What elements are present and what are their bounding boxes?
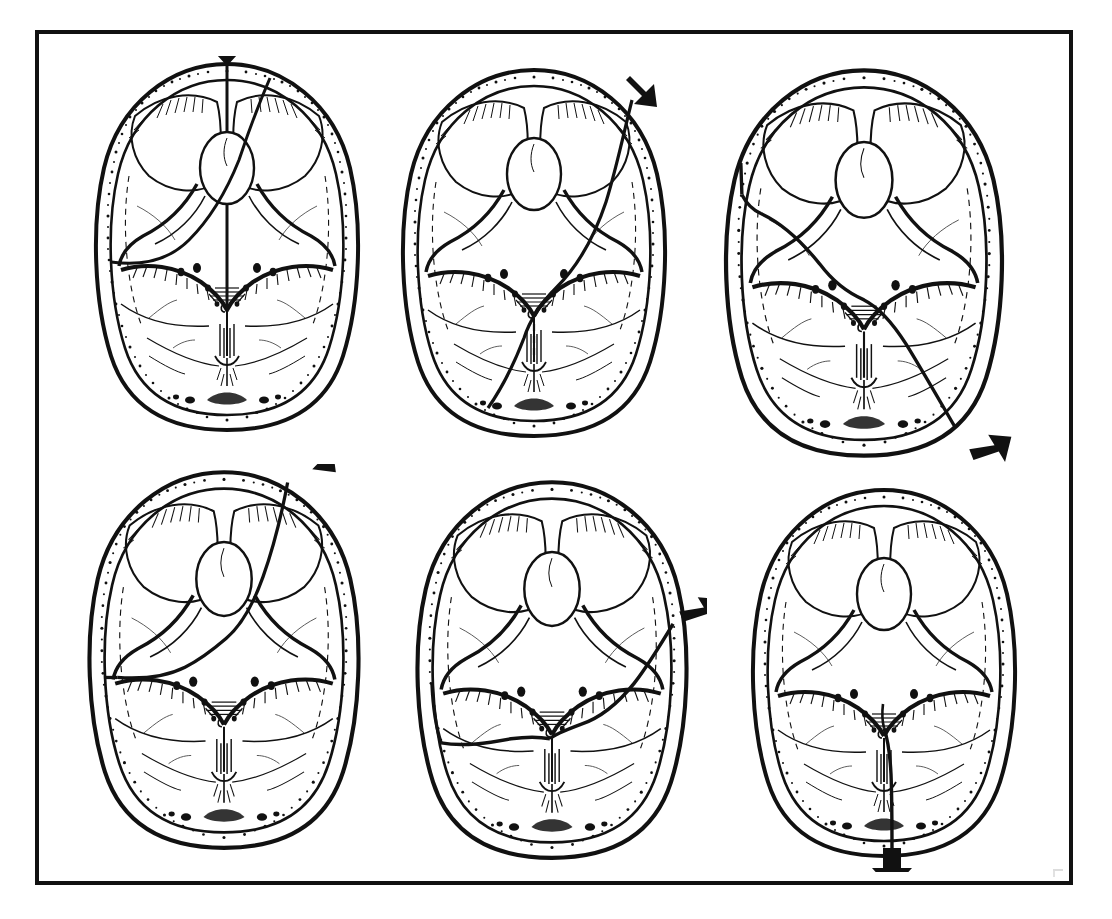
arrow-right-frontal-vault-icon [302, 464, 336, 472]
skull-base-anatomy [726, 70, 1002, 455]
panel-2-skull-base-diagram [384, 62, 684, 442]
panel-grid [39, 34, 1069, 881]
skull-base-anatomy [753, 490, 1015, 856]
panel-3-skull-base-diagram [704, 62, 1024, 462]
skull-base-anatomy [417, 482, 686, 858]
figure-frame [35, 30, 1073, 885]
panel-6-skull-base-diagram [734, 472, 1034, 872]
arrow-left-occipital-icon [969, 435, 1011, 462]
panel-5-skull-base-diagram [397, 474, 707, 864]
panel-1-skull-base-diagram [77, 56, 377, 436]
panel-4-skull-base-diagram [69, 464, 379, 854]
plate-corner-mark [1053, 869, 1063, 877]
skull-base-anatomy [89, 472, 358, 848]
